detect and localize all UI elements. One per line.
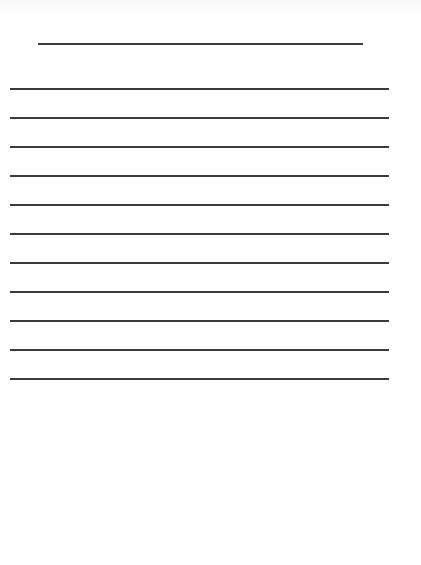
writing-paper-page — [0, 0, 421, 565]
ruled-line — [10, 291, 389, 293]
ruled-line — [10, 146, 389, 148]
ruled-line — [10, 378, 389, 380]
top-edge-shading — [0, 0, 421, 14]
ruled-line — [10, 175, 389, 177]
ruled-line — [10, 262, 389, 264]
ruled-line — [10, 88, 389, 90]
ruled-line — [10, 117, 389, 119]
ruled-line — [10, 204, 389, 206]
ruled-line — [10, 349, 389, 351]
ruled-line — [10, 320, 389, 322]
ruled-line — [10, 233, 389, 235]
title-line — [38, 43, 363, 45]
